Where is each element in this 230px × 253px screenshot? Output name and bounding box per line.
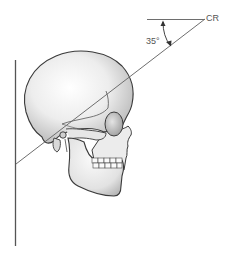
diagram-canvas: 35° CR: [0, 0, 230, 253]
orbit: [105, 112, 123, 136]
styloid-process: [65, 139, 67, 152]
central-ray-label: CR: [206, 13, 219, 23]
skull-illustration: [24, 51, 133, 196]
angle-label: 35°: [146, 36, 160, 46]
angle-arrowhead-top: [161, 21, 166, 27]
mandibular-condyle: [60, 132, 66, 138]
teeth: [92, 158, 122, 168]
angle-arrowhead-bottom: [166, 41, 172, 47]
mastoid-process: [53, 138, 60, 152]
